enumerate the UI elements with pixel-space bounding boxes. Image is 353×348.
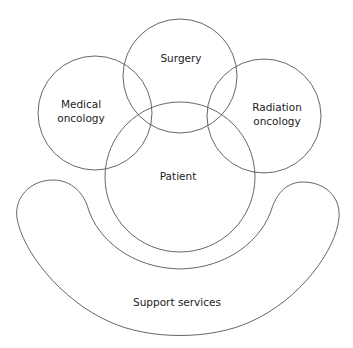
support-services-shape bbox=[17, 180, 340, 336]
radiation-oncology-label-line1: Radiation bbox=[252, 101, 302, 113]
care-team-diagram: Surgery Medical oncology Radiation oncol… bbox=[0, 0, 353, 348]
surgery-circle bbox=[123, 19, 237, 133]
medical-oncology-label-line1: Medical bbox=[61, 98, 101, 110]
radiation-oncology-label-line2: oncology bbox=[253, 115, 301, 127]
support-services-label: Support services bbox=[133, 296, 221, 308]
patient-label: Patient bbox=[160, 170, 197, 182]
medical-oncology-label-line2: oncology bbox=[57, 112, 105, 124]
surgery-label: Surgery bbox=[160, 52, 201, 64]
